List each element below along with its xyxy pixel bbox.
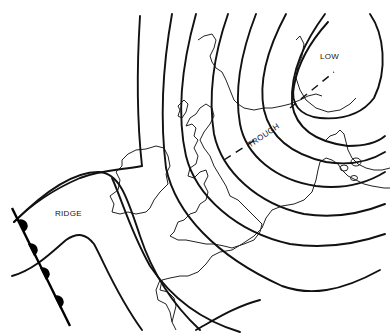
low-label: LOW [320, 52, 339, 61]
isobar-7 [163, 14, 380, 291]
coastline-continent [160, 170, 318, 322]
trough-axis [224, 72, 334, 160]
front-semicircle [54, 295, 64, 308]
isobar-8-continuation [112, 178, 240, 332]
isobar-outer [196, 300, 260, 330]
ridge-label: RIDGE [55, 209, 82, 218]
coastline-scotland-west [178, 100, 188, 118]
coastlines [110, 34, 390, 330]
front-semicircle [40, 267, 50, 280]
isobar-ridge-upper [14, 172, 200, 330]
front-semicircle [28, 243, 38, 256]
front-line [12, 208, 70, 326]
isobar-6 [181, 14, 385, 246]
coastline-ireland [110, 146, 170, 214]
weather-chart [0, 0, 390, 336]
isobar-low-closed [293, 14, 383, 118]
warm-front [12, 208, 70, 326]
isobar-2 [292, 14, 385, 146]
coastline-great-britain [170, 104, 262, 248]
isobar-5 [212, 14, 385, 216]
